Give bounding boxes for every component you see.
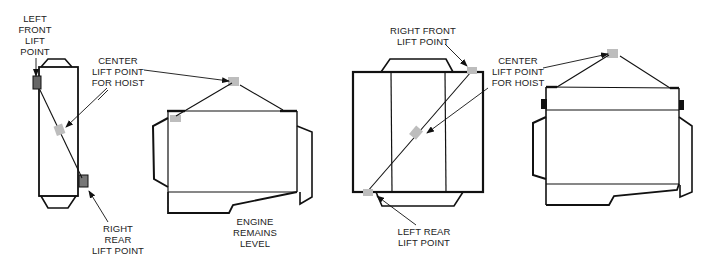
center-lift-point-3 — [409, 126, 423, 140]
label-engine-remains-level: ENGINE REMAINS LEVEL — [223, 216, 287, 249]
label-right-front-lift-point: RIGHT FRONT LIFT POINT — [383, 25, 463, 47]
center-lift-point-1 — [54, 124, 66, 136]
left-rear-lift-point — [363, 189, 373, 196]
left-front-lift-point — [33, 76, 41, 89]
label-right-rear-lift-point: RIGHT REAR LIFT POINT — [86, 223, 150, 256]
diagram-drawing — [0, 0, 701, 258]
right-rear-lift-point — [79, 175, 88, 187]
view-2-engine-outline — [153, 111, 312, 213]
label-center-lift-point-hoist-1: CENTER LIFT POINT FOR HOIST — [86, 55, 150, 88]
engine-lift-diagram: LEFT FRONT LIFT POINT CENTER LIFT POINT … — [0, 0, 701, 258]
right-front-lift-point — [467, 67, 477, 74]
label-left-rear-lift-point: LEFT REAR LIFT POINT — [392, 226, 456, 248]
view-4-engine-outline — [533, 87, 692, 205]
right-side-tab-4 — [679, 100, 684, 110]
front-lift-point-2 — [170, 115, 181, 122]
label-left-front-lift-point: LEFT FRONT LIFT POINT — [18, 13, 52, 57]
left-side-tab-4 — [541, 99, 547, 109]
label-center-lift-point-hoist-3: CENTER LIFT POINT FOR HOIST — [486, 55, 550, 88]
center-lift-point-4 — [607, 49, 618, 58]
